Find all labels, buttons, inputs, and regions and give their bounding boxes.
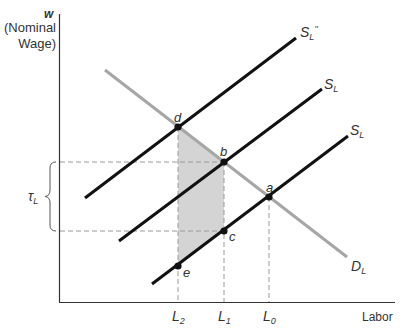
point-d-label: d (174, 110, 181, 125)
demand-label: DL (351, 258, 366, 276)
point-e (174, 262, 181, 269)
supply-shifted2-label: SL'' (300, 24, 318, 42)
point-c-label: c (229, 229, 236, 244)
point-c (220, 227, 227, 234)
x-tick-L1: L1 (218, 308, 231, 326)
point-a-label: a (266, 180, 273, 195)
point-e-label: e (183, 265, 190, 280)
point-b-label: b (220, 144, 227, 159)
supply-shifted1-label: SL (324, 76, 338, 94)
y-axis-symbol: w (44, 7, 53, 21)
labor-market-diagram (0, 0, 402, 330)
tax-brace-icon (45, 162, 56, 231)
x-axis-label: Labor (362, 310, 393, 324)
y-axis-label-line1: (Nominal (4, 20, 56, 35)
x-tick-L2: L2 (172, 308, 185, 326)
supply-original-label: SL (350, 122, 364, 140)
tax-label: τL (28, 188, 38, 206)
x-tick-L0: L0 (263, 308, 276, 326)
point-b (220, 158, 227, 165)
y-axis-label-line2: Wage) (4, 36, 56, 51)
